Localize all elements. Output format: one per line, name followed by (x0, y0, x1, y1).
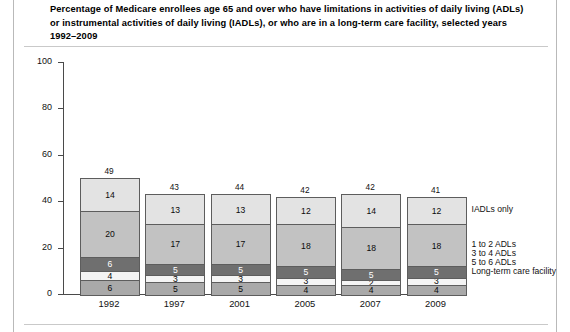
bar-segment: 20 (81, 212, 139, 258)
stacked-bar: 4351812 (276, 197, 336, 296)
bar-segment: 12 (408, 198, 466, 226)
bar-segment: 6 (81, 281, 139, 295)
stacked-bar: 4351812 (407, 197, 467, 296)
y-tick-label: 80 (0, 102, 52, 112)
bar-total-label: 49 (80, 166, 138, 176)
bar-segment: 3 (277, 279, 335, 286)
bar-segment: 18 (342, 228, 400, 270)
bar-segment: 4 (342, 286, 400, 295)
chart-title: Percentage of Medicare enrollees age 65 … (50, 3, 530, 44)
stacked-bar: 5351713 (145, 194, 205, 296)
chart-page: Percentage of Medicare enrollees age 65 … (0, 0, 570, 332)
y-tick-label: 60 (0, 149, 52, 159)
bar-segment: 17 (146, 225, 204, 264)
bar-segment: 5 (277, 267, 335, 279)
bar-segment: 3 (408, 279, 466, 286)
bar-segment: 14 (342, 195, 400, 227)
bar-segment: 5 (212, 283, 270, 295)
legend-label: Long-term care facility (472, 267, 557, 277)
bar-total-label: 41 (407, 185, 465, 195)
y-tick (58, 248, 64, 249)
bar-segment: 17 (212, 225, 270, 264)
bar-segment: 5 (342, 270, 400, 282)
legend-label: IADLs only (472, 205, 514, 215)
y-tick-label: 40 (0, 195, 52, 205)
bottom-separator (24, 324, 548, 325)
stacked-bar: 4251814 (341, 194, 401, 296)
x-axis-label: 2005 (276, 298, 334, 309)
bar-segment: 14 (81, 179, 139, 211)
bar-segment: 13 (146, 195, 204, 225)
x-axis-label: 1997 (145, 298, 203, 309)
y-tick (58, 155, 64, 156)
y-tick-label: 100 (0, 56, 52, 66)
x-axis-label: 1992 (80, 298, 138, 309)
bar-segment: 18 (408, 225, 466, 267)
bar-segment: 3 (212, 276, 270, 283)
x-axis-label: 2007 (341, 298, 399, 309)
x-axis-label: 2009 (407, 298, 465, 309)
y-tick-label: 0 (0, 288, 52, 298)
bar-segment: 4 (277, 286, 335, 295)
bar-segment: 4 (81, 272, 139, 281)
bar-segment: 3 (146, 276, 204, 283)
y-tick (58, 62, 64, 63)
stacked-bar: 6462014 (80, 178, 140, 296)
y-tick-label: 20 (0, 242, 52, 252)
bar-segment: 2 (342, 281, 400, 286)
bar-segment: 5 (212, 265, 270, 277)
bar-segment: 18 (277, 225, 335, 267)
y-tick (58, 108, 64, 109)
bar-segment: 13 (212, 195, 270, 225)
y-axis-line (63, 62, 64, 295)
bar-total-label: 43 (145, 182, 203, 192)
bar-segment: 5 (408, 267, 466, 279)
bar-total-label: 44 (211, 182, 269, 192)
bar-segment: 5 (146, 265, 204, 277)
y-tick (58, 294, 64, 295)
y-tick (58, 201, 64, 202)
bar-total-label: 42 (276, 185, 334, 195)
bar-segment: 4 (408, 286, 466, 295)
bar-segment: 6 (81, 258, 139, 272)
stacked-bar: 5351713 (211, 194, 271, 296)
x-axis-label: 2001 (211, 298, 269, 309)
chart-area: Percent 020406080100 6462014491992535171… (0, 46, 570, 324)
bar-total-label: 42 (341, 182, 399, 192)
bar-segment: 12 (277, 198, 335, 226)
bar-segment: 5 (146, 283, 204, 295)
